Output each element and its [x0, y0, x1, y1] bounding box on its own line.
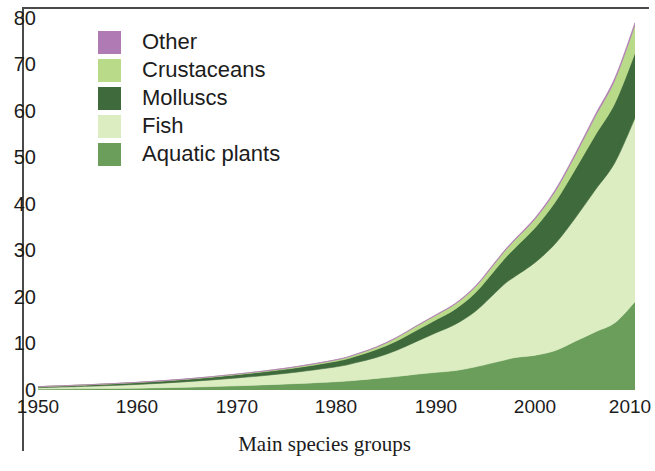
- x-tick-1970: 1970: [202, 396, 272, 418]
- legend-item-crustaceans: Crustaceans: [98, 56, 358, 84]
- legend-swatch-aquatic-plants: [98, 143, 121, 166]
- frame-top-border: [22, 7, 649, 9]
- x-tick-1990: 1990: [401, 396, 471, 418]
- x-tick-1960: 1960: [102, 396, 172, 418]
- y-axis: 80 70 60 50 40 30 20 10 0: [0, 0, 36, 400]
- y-tick-50: 50: [2, 147, 36, 167]
- legend-label-crustaceans: Crustaceans: [142, 58, 266, 82]
- legend-swatch-other: [98, 31, 121, 54]
- y-tick-70: 70: [2, 54, 36, 74]
- y-tick-30: 30: [2, 240, 36, 260]
- x-tick-2000: 2000: [500, 396, 570, 418]
- legend-swatch-molluscs: [98, 87, 121, 110]
- legend-item-molluscs: Molluscs: [98, 84, 358, 112]
- x-tick-1950: 1950: [3, 396, 73, 418]
- y-tick-10: 10: [2, 333, 36, 353]
- y-tick-60: 60: [2, 101, 36, 121]
- x-tick-2010: 2010: [595, 396, 655, 418]
- x-axis: 1950 1960 1970 1980 1990 2000 2010: [0, 396, 649, 422]
- legend-item-other: Other: [98, 28, 358, 56]
- legend-label-fish: Fish: [142, 114, 184, 138]
- figure-caption: Main species groups: [0, 432, 649, 457]
- legend-label-aquatic-plants: Aquatic plants: [142, 142, 280, 166]
- y-tick-40: 40: [2, 194, 36, 214]
- legend-label-other: Other: [142, 30, 197, 54]
- legend-item-fish: Fish: [98, 112, 358, 140]
- chart-legend: Other Crustaceans Molluscs Fish Aquatic …: [98, 28, 358, 168]
- legend-item-aquatic-plants: Aquatic plants: [98, 140, 358, 168]
- legend-swatch-crustaceans: [98, 59, 121, 82]
- x-tick-1980: 1980: [301, 396, 371, 418]
- legend-swatch-fish: [98, 115, 121, 138]
- y-tick-80: 80: [2, 8, 36, 28]
- y-tick-20: 20: [2, 287, 36, 307]
- legend-label-molluscs: Molluscs: [142, 86, 228, 110]
